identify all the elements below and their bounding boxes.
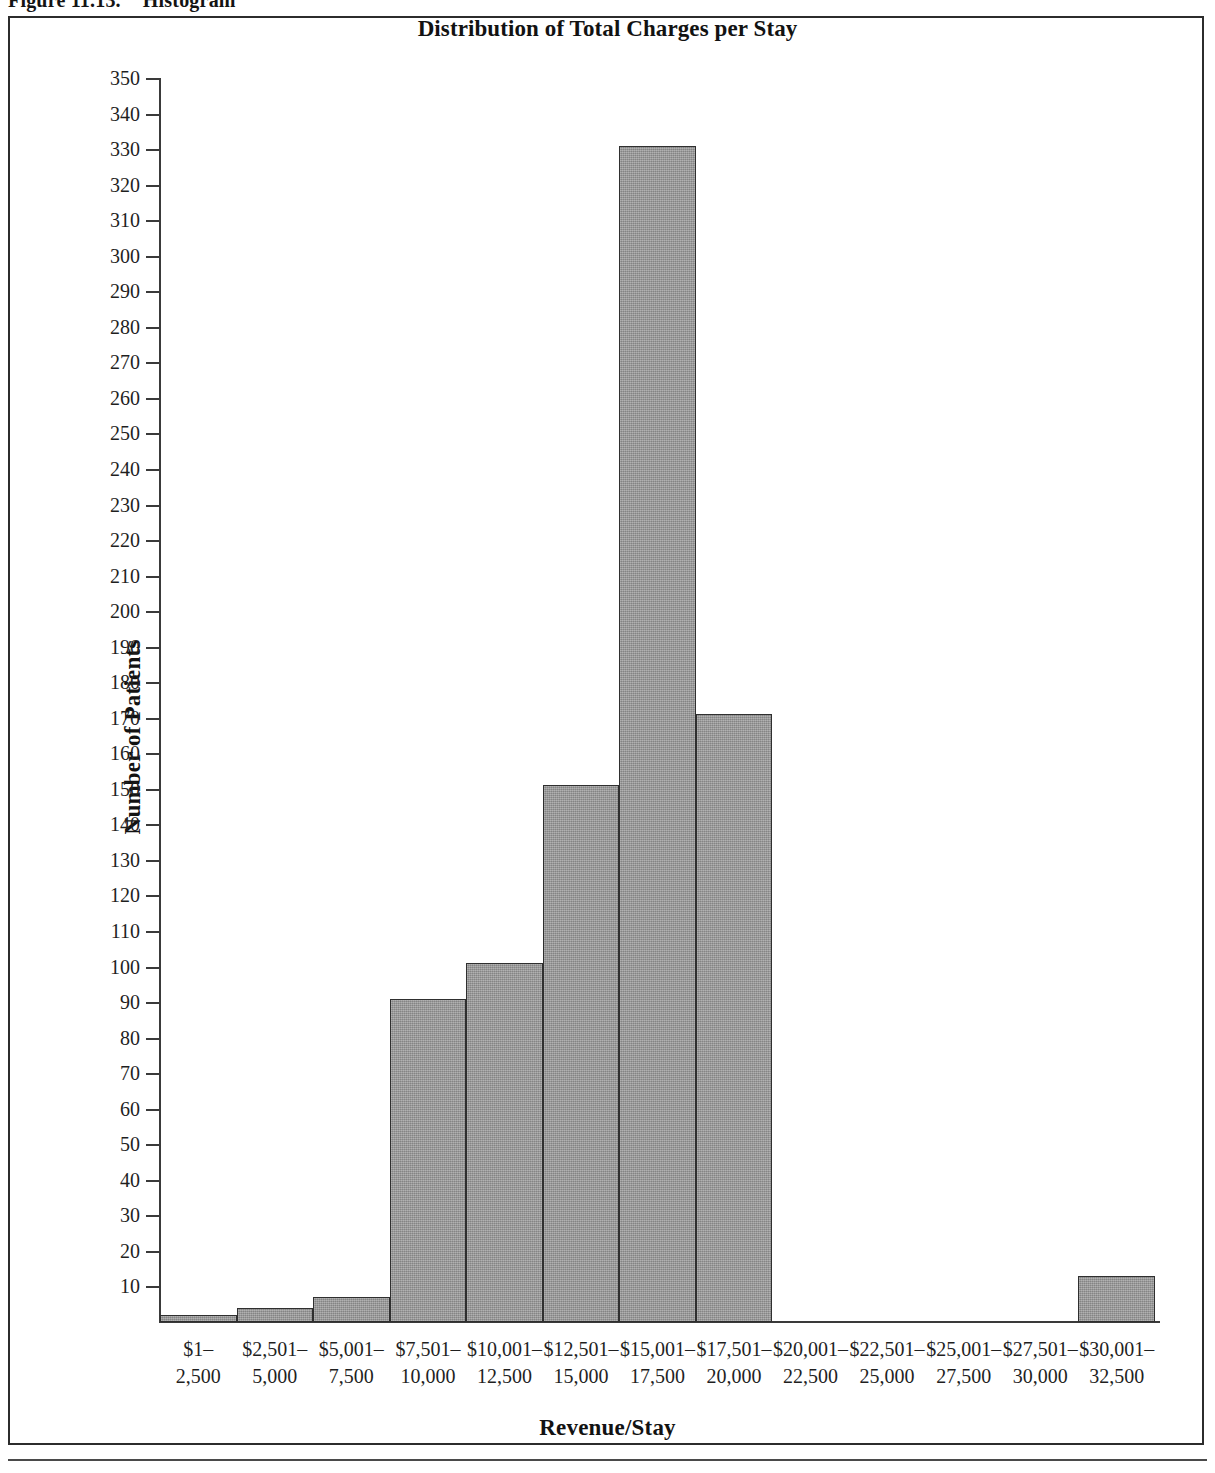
x-tick-label-line2: 15,000 [543, 1363, 620, 1390]
y-tick-mark [146, 327, 160, 329]
y-tick-mark [146, 576, 160, 578]
figure-caption: Figure 11.13.Histogram [8, 0, 236, 15]
y-tick-label: 30 [120, 1205, 140, 1225]
y-tick-label: 100 [110, 957, 140, 977]
x-tick-label-line1: $20,001– [773, 1338, 848, 1360]
x-tick-label-line2: 25,000 [849, 1363, 926, 1390]
x-tick-label-line1: $30,001– [1079, 1338, 1154, 1360]
figure-caption-text: Histogram [143, 0, 236, 11]
bar-series [160, 78, 1155, 1322]
y-tick-mark [146, 895, 160, 897]
y-tick-label: 140 [110, 814, 140, 834]
histogram-bar [390, 999, 467, 1322]
x-tick-label: $12,501–15,000 [543, 1336, 620, 1390]
y-tick-label: 300 [110, 246, 140, 266]
x-tick-label-line2: 10,000 [390, 1363, 467, 1390]
x-tick-label: $1–2,500 [160, 1336, 237, 1390]
y-tick-mark [146, 220, 160, 222]
y-tick-mark [146, 469, 160, 471]
y-tick-mark [146, 362, 160, 364]
x-tick-label-line2: 27,500 [925, 1363, 1002, 1390]
histogram-bar [1078, 1276, 1155, 1322]
x-tick-label-line1: $5,001– [319, 1338, 384, 1360]
y-tick-mark [146, 718, 160, 720]
y-tick-label: 310 [110, 210, 140, 230]
y-tick-mark [146, 1144, 160, 1146]
y-tick-label: 230 [110, 495, 140, 515]
histogram-bar [237, 1308, 314, 1322]
x-tick-label-line1: $2,501– [242, 1338, 307, 1360]
x-tick-label-line1: $15,001– [620, 1338, 695, 1360]
x-tick-label-line2: 17,500 [619, 1363, 696, 1390]
y-tick-label: 210 [110, 566, 140, 586]
y-tick-label: 320 [110, 175, 140, 195]
x-tick-label: $10,001–12,500 [466, 1336, 543, 1390]
y-tick-mark [146, 291, 160, 293]
page-rule [8, 1459, 1207, 1461]
x-tick-label-line1: $27,501– [1003, 1338, 1078, 1360]
x-tick-label-line2: 7,500 [313, 1363, 390, 1390]
x-tick-label: $30,001–32,500 [1078, 1336, 1155, 1390]
x-tick-label-line1: $22,501– [850, 1338, 925, 1360]
y-tick-label: 160 [110, 743, 140, 763]
figure-caption-number: Figure 11.13. [8, 0, 121, 11]
y-tick-label: 330 [110, 139, 140, 159]
x-tick-label-line2: 2,500 [160, 1363, 237, 1390]
y-tick-label: 150 [110, 779, 140, 799]
x-tick-label-line1: $7,501– [395, 1338, 460, 1360]
y-tick-mark [146, 1286, 160, 1288]
x-tick-label-line2: 22,500 [772, 1363, 849, 1390]
y-tick-mark [146, 78, 160, 80]
figure-page: Figure 11.13.Histogram Distribution of T… [0, 0, 1215, 1473]
y-tick-label: 90 [120, 992, 140, 1012]
histogram-bar [160, 1315, 237, 1322]
y-tick-label: 120 [110, 885, 140, 905]
y-tick-mark [146, 1109, 160, 1111]
y-tick-label: 220 [110, 530, 140, 550]
y-tick-label: 110 [111, 921, 140, 941]
x-tick-label-line2: 12,500 [466, 1363, 543, 1390]
y-tick-label: 280 [110, 317, 140, 337]
plot-area: 3503403303203103002902802702602502402302… [160, 78, 1155, 1322]
y-tick-mark [146, 1215, 160, 1217]
x-tick-label: $25,001–27,500 [925, 1336, 1002, 1390]
y-tick-mark [146, 1251, 160, 1253]
x-tick-label-line1: $17,501– [697, 1338, 772, 1360]
x-tick-label-line2: 5,000 [237, 1363, 314, 1390]
x-tick-label-line2: 20,000 [696, 1363, 773, 1390]
y-tick-mark [146, 1073, 160, 1075]
histogram-bar [696, 714, 773, 1322]
x-tick-label-line2: 30,000 [1002, 1363, 1079, 1390]
y-tick-label: 80 [120, 1028, 140, 1048]
y-tick-mark [146, 860, 160, 862]
histogram-bar [466, 963, 543, 1322]
y-tick-mark [146, 931, 160, 933]
x-tick-label: $27,501–30,000 [1002, 1336, 1079, 1390]
y-tick-mark [146, 789, 160, 791]
x-tick-label: $2,501–5,000 [237, 1336, 314, 1390]
x-tick-label: $7,501–10,000 [390, 1336, 467, 1390]
y-tick-mark [146, 753, 160, 755]
histogram-bar [543, 785, 620, 1322]
y-tick-mark [146, 398, 160, 400]
y-tick-label: 170 [110, 708, 140, 728]
x-tick-label: $22,501–25,000 [849, 1336, 926, 1390]
y-tick-label: 190 [110, 637, 140, 657]
x-tick-label: $20,001–22,500 [772, 1336, 849, 1390]
y-tick-mark [146, 824, 160, 826]
y-tick-label: 240 [110, 459, 140, 479]
y-tick-mark [146, 1002, 160, 1004]
y-tick-label: 260 [110, 388, 140, 408]
chart-title: Distribution of Total Charges per Stay [0, 16, 1215, 42]
y-tick-label: 60 [120, 1099, 140, 1119]
y-tick-label: 350 [110, 68, 140, 88]
y-axis-title: Number of Patients [120, 639, 146, 834]
y-tick-label: 10 [120, 1276, 140, 1296]
y-tick-mark [146, 647, 160, 649]
y-tick-mark [146, 682, 160, 684]
y-tick-mark [146, 540, 160, 542]
y-tick-mark [146, 256, 160, 258]
y-tick-mark [146, 433, 160, 435]
y-tick-label: 40 [120, 1170, 140, 1190]
x-tick-label-line2: 32,500 [1078, 1363, 1155, 1390]
